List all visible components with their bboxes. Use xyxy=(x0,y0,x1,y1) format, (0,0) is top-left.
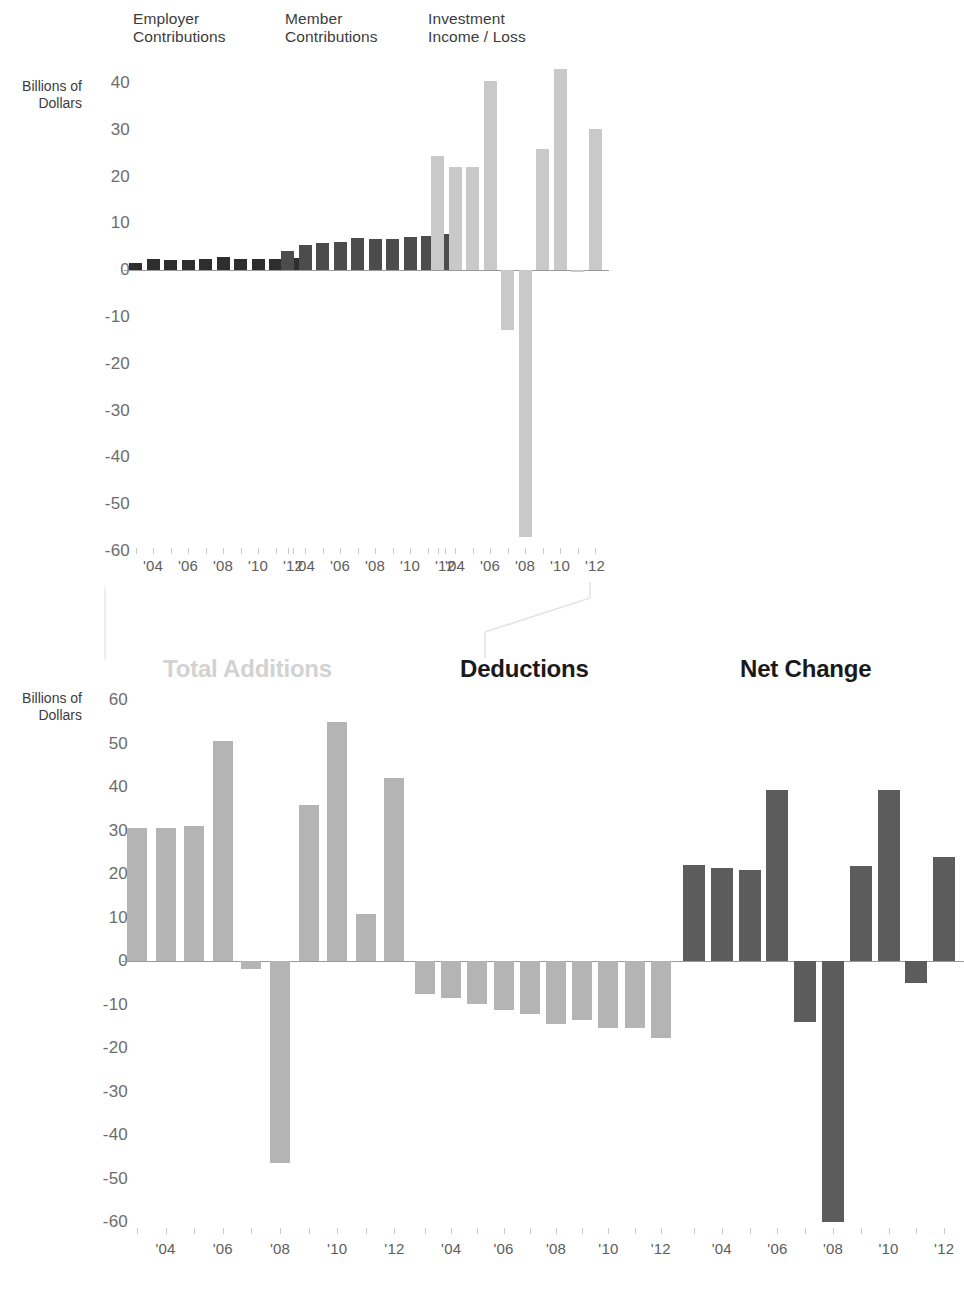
y-tick-label: 20 xyxy=(82,864,128,884)
bar[interactable] xyxy=(213,741,233,961)
panel-title-net-change: Net Change xyxy=(740,655,871,683)
bar[interactable] xyxy=(404,237,417,270)
bar[interactable] xyxy=(415,961,435,994)
bar[interactable] xyxy=(520,961,540,1014)
bar[interactable] xyxy=(241,961,261,969)
bar[interactable] xyxy=(386,239,399,270)
x-tick-label: '06 xyxy=(330,557,350,574)
bar[interactable] xyxy=(651,961,671,1038)
y-tick-label: 40 xyxy=(82,777,128,797)
bar[interactable] xyxy=(598,961,618,1028)
x-tick-mark xyxy=(375,548,376,554)
x-tick-label: '10 xyxy=(598,1240,618,1257)
x-tick-mark xyxy=(428,548,429,554)
bar[interactable] xyxy=(794,961,816,1022)
x-tick-mark xyxy=(241,548,242,554)
bar[interactable] xyxy=(766,790,788,961)
bar[interactable] xyxy=(334,242,347,271)
x-tick-mark xyxy=(280,1228,281,1234)
bar[interactable] xyxy=(217,257,230,270)
panel-title-member-contributions: Member Contributions xyxy=(285,10,435,46)
bar[interactable] xyxy=(431,156,444,271)
bar[interactable] xyxy=(281,251,294,270)
x-tick-mark xyxy=(425,1228,426,1234)
bar[interactable] xyxy=(129,263,142,270)
bar[interactable] xyxy=(589,129,602,270)
bar[interactable] xyxy=(822,961,844,1222)
bar[interactable] xyxy=(484,81,497,271)
bar[interactable] xyxy=(905,961,927,983)
bar[interactable] xyxy=(351,238,364,270)
x-tick-mark xyxy=(288,548,289,554)
bar[interactable] xyxy=(199,259,212,270)
x-tick-label: '08 xyxy=(515,557,535,574)
x-tick-mark xyxy=(251,1228,252,1234)
bar[interactable] xyxy=(878,790,900,961)
y-tick-label: 20 xyxy=(84,167,130,187)
bar[interactable] xyxy=(127,828,147,961)
x-tick-mark xyxy=(661,1228,662,1234)
x-tick-label: '04 xyxy=(143,557,163,574)
bar[interactable] xyxy=(494,961,514,1010)
bar[interactable] xyxy=(252,259,265,270)
bar[interactable] xyxy=(466,167,479,270)
bar[interactable] xyxy=(147,259,160,270)
bar[interactable] xyxy=(384,778,404,961)
x-tick-mark xyxy=(833,1228,834,1234)
bar[interactable] xyxy=(683,865,705,961)
bar[interactable] xyxy=(299,805,319,961)
x-tick-mark xyxy=(223,548,224,554)
x-tick-label: '10 xyxy=(879,1240,899,1257)
x-tick-mark xyxy=(944,1228,945,1234)
bar[interactable] xyxy=(572,961,592,1020)
bar[interactable] xyxy=(519,270,532,537)
x-tick-label: '04 xyxy=(712,1240,732,1257)
bar[interactable] xyxy=(739,870,761,961)
bar[interactable] xyxy=(369,239,382,270)
bar[interactable] xyxy=(184,826,204,961)
bar[interactable] xyxy=(270,961,290,1163)
bar[interactable] xyxy=(546,961,566,1024)
panel-title-deductions: Deductions xyxy=(460,655,589,683)
bar[interactable] xyxy=(356,914,376,961)
bar[interactable] xyxy=(156,828,176,961)
bar[interactable] xyxy=(554,69,567,270)
x-tick-mark xyxy=(578,548,579,554)
bar[interactable] xyxy=(234,259,247,270)
y-tick-label: 40 xyxy=(84,73,130,93)
bar[interactable] xyxy=(501,270,514,330)
bar[interactable] xyxy=(467,961,487,1004)
y-tick-label: 10 xyxy=(82,908,128,928)
y-tick-label: -10 xyxy=(82,995,128,1015)
bar[interactable] xyxy=(711,868,733,961)
bar[interactable] xyxy=(449,167,462,270)
bar[interactable] xyxy=(933,857,955,961)
x-tick-mark xyxy=(206,548,207,554)
x-tick-label: '04 xyxy=(156,1240,176,1257)
bar[interactable] xyxy=(164,260,177,270)
bar[interactable] xyxy=(625,961,645,1028)
bar[interactable] xyxy=(182,260,195,270)
x-tick-label: '06 xyxy=(480,557,500,574)
x-tick-mark xyxy=(582,1228,583,1234)
x-tick-mark xyxy=(340,548,341,554)
bar[interactable] xyxy=(441,961,461,998)
x-tick-label: '08 xyxy=(213,557,233,574)
x-tick-mark xyxy=(595,548,596,554)
bar[interactable] xyxy=(536,149,549,270)
x-tick-label: '12 xyxy=(384,1240,404,1257)
x-tick-label: '06 xyxy=(494,1240,514,1257)
x-tick-label: '06 xyxy=(767,1240,787,1257)
x-tick-mark xyxy=(556,1228,557,1234)
bar[interactable] xyxy=(299,245,312,270)
y-tick-label: 30 xyxy=(82,821,128,841)
bar[interactable] xyxy=(316,243,329,271)
bar[interactable] xyxy=(850,866,872,961)
bar[interactable] xyxy=(327,722,347,961)
x-tick-label: '08 xyxy=(823,1240,843,1257)
y-tick-label: 10 xyxy=(84,213,130,233)
bar[interactable] xyxy=(571,270,584,272)
x-tick-mark xyxy=(543,548,544,554)
zero-axis-line xyxy=(122,961,416,962)
x-tick-mark xyxy=(750,1228,751,1234)
